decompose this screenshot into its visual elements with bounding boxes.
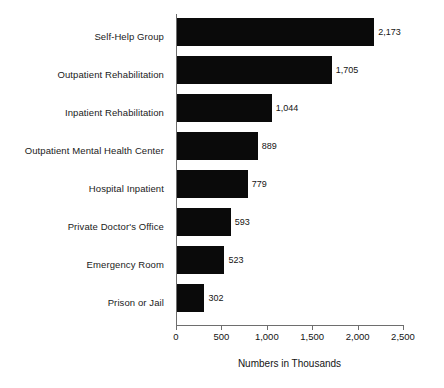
category-label: Prison or Jail xyxy=(0,284,170,322)
bar-value-label: 523 xyxy=(224,246,243,274)
bar xyxy=(177,208,231,236)
x-axis-tick xyxy=(312,325,313,330)
bar-value-label: 1,044 xyxy=(272,94,299,122)
bar-value-label: 1,705 xyxy=(332,56,359,84)
x-axis-tick-label: 1,000 xyxy=(255,331,279,342)
x-axis-tick xyxy=(267,325,268,330)
bar-row: 302 xyxy=(177,284,404,322)
x-axis-tick-label: 1,500 xyxy=(300,331,324,342)
category-label: Emergency Room xyxy=(0,246,170,284)
bar-value-label: 302 xyxy=(204,284,223,312)
category-label: Outpatient Mental Health Center xyxy=(0,132,170,170)
bar-row: 889 xyxy=(177,132,404,170)
bar-row: 593 xyxy=(177,208,404,246)
category-axis-labels: Self-Help Group Outpatient Rehabilitatio… xyxy=(0,18,170,322)
bar xyxy=(177,18,374,46)
x-axis-tick xyxy=(176,325,177,330)
bar xyxy=(177,56,332,84)
bar xyxy=(177,284,204,312)
x-axis-tick xyxy=(221,325,222,330)
x-axis-tick xyxy=(403,325,404,330)
x-axis-tick-label: 0 xyxy=(173,331,178,342)
bar-row: 1,705 xyxy=(177,56,404,94)
bar-series: 2,173 1,705 1,044 889 779 593 xyxy=(177,18,404,322)
bar xyxy=(177,94,272,122)
bar-row: 1,044 xyxy=(177,94,404,132)
x-axis-title: Numbers in Thousands xyxy=(176,358,403,369)
bar-value-label: 593 xyxy=(231,208,250,236)
bar-row: 779 xyxy=(177,170,404,208)
x-axis-ticks xyxy=(176,325,403,330)
bar xyxy=(177,170,248,198)
x-axis-tick-labels: 05001,0001,5002,0002,500 xyxy=(176,331,403,345)
plot-area: 2,173 1,705 1,044 889 779 593 xyxy=(176,14,404,325)
category-label: Private Doctor's Office xyxy=(0,208,170,246)
bar-value-label: 779 xyxy=(248,170,267,198)
category-label: Outpatient Rehabilitation xyxy=(0,56,170,94)
x-axis-tick-label: 500 xyxy=(213,331,229,342)
x-axis-tick-label: 2,000 xyxy=(346,331,370,342)
category-label: Hospital Inpatient xyxy=(0,170,170,208)
bar xyxy=(177,246,224,274)
x-axis-tick xyxy=(358,325,359,330)
x-axis-tick-label: 2,500 xyxy=(391,331,415,342)
horizontal-bar-chart: Self-Help Group Outpatient Rehabilitatio… xyxy=(0,0,444,388)
category-label: Inpatient Rehabilitation xyxy=(0,94,170,132)
bar-row: 523 xyxy=(177,246,404,284)
bar-row: 2,173 xyxy=(177,18,404,56)
bar-value-label: 2,173 xyxy=(374,18,401,46)
bar xyxy=(177,132,258,160)
category-label: Self-Help Group xyxy=(0,18,170,56)
bar-value-label: 889 xyxy=(258,132,277,160)
